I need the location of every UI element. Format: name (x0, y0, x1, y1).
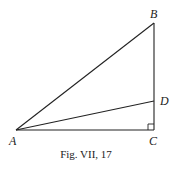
figure-caption: Fig. VII, 17 (60, 148, 112, 160)
geometry-diagram: B D A C Fig. VII, 17 (0, 0, 173, 169)
label-d: D (159, 94, 169, 108)
label-b: B (150, 7, 158, 21)
right-angle-marker (148, 124, 154, 130)
label-c: C (149, 134, 158, 148)
segment-ad (16, 101, 154, 130)
label-a: A (8, 134, 17, 148)
segment-ab (16, 23, 154, 130)
